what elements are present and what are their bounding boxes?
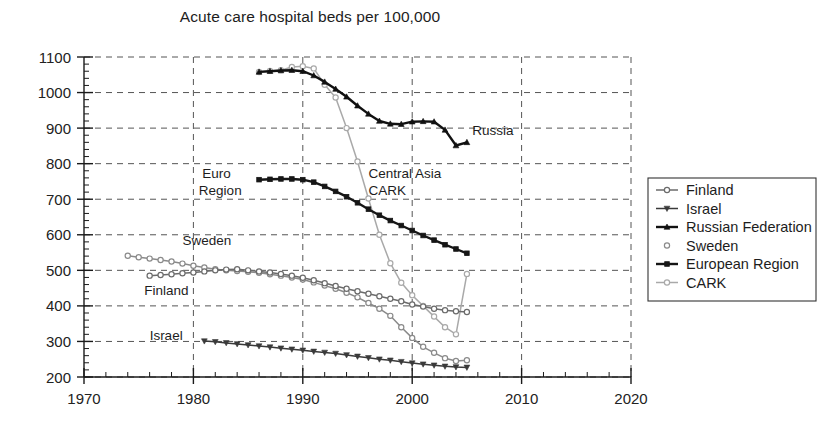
y-tick-label-500: 500 xyxy=(46,262,71,279)
data-point xyxy=(169,259,174,264)
annotation-finland: Finland xyxy=(144,283,188,298)
series-line xyxy=(259,66,467,334)
y-tick-label-700: 700 xyxy=(46,191,71,208)
data-point xyxy=(664,187,669,192)
data-point xyxy=(432,238,437,243)
data-point xyxy=(180,261,185,266)
data-point xyxy=(388,218,393,223)
data-point xyxy=(464,271,469,276)
chart-plot-area: 20030040050060070080090010001100 1970198… xyxy=(0,0,839,426)
data-point xyxy=(322,184,327,189)
series-sweden xyxy=(125,253,469,363)
data-point xyxy=(399,299,404,304)
data-point xyxy=(443,242,448,247)
data-point xyxy=(355,200,360,205)
data-point xyxy=(191,270,196,275)
x-tick-label-1970: 1970 xyxy=(67,390,100,407)
data-point xyxy=(410,302,415,307)
legend-label: Finland xyxy=(686,182,734,198)
legend-label: CARK xyxy=(686,275,727,291)
annotation-cark: CARK xyxy=(368,183,406,198)
annotation-euro: Euro xyxy=(202,166,231,181)
data-point xyxy=(322,281,327,286)
data-point xyxy=(377,232,382,237)
data-point xyxy=(410,335,415,340)
y-tick-label-400: 400 xyxy=(46,297,71,314)
data-point xyxy=(377,213,382,218)
data-point xyxy=(267,270,272,275)
data-point xyxy=(399,223,404,228)
data-point xyxy=(421,233,426,238)
data-point xyxy=(180,271,185,276)
legend-label: Israel xyxy=(686,201,721,217)
data-point xyxy=(377,306,382,311)
series-line xyxy=(259,70,467,145)
data-point xyxy=(410,293,415,298)
data-point xyxy=(202,269,207,274)
data-point xyxy=(664,243,669,248)
data-point xyxy=(442,308,447,313)
data-point xyxy=(191,263,196,268)
data-point xyxy=(355,159,360,164)
annotation-region: Region xyxy=(199,183,242,198)
data-point xyxy=(664,280,669,285)
y-tick-label-1100: 1100 xyxy=(39,49,71,66)
x-tick-label-2010: 2010 xyxy=(505,390,538,407)
data-point xyxy=(169,272,174,277)
data-point xyxy=(158,257,163,262)
data-point xyxy=(246,268,251,273)
data-point xyxy=(442,325,447,330)
data-point xyxy=(311,278,316,283)
x-tick-label-1990: 1990 xyxy=(286,390,319,407)
data-point xyxy=(125,253,130,258)
data-point xyxy=(366,300,371,305)
x-tick-label-2020: 2020 xyxy=(614,390,647,407)
annotation-israel: Israel xyxy=(150,328,183,343)
data-point xyxy=(453,309,458,314)
data-point xyxy=(333,283,338,288)
data-point xyxy=(431,314,436,319)
data-point xyxy=(344,126,349,131)
chart-legend[interactable]: FinlandIsraelRussian FederationSwedenEur… xyxy=(648,178,816,301)
annotation-central-asia: Central Asia xyxy=(368,166,441,181)
data-point xyxy=(355,295,360,300)
series-cark xyxy=(256,64,469,337)
y-tick-label-800: 800 xyxy=(46,155,71,172)
data-point xyxy=(453,332,458,337)
data-point xyxy=(257,177,262,182)
data-point xyxy=(235,267,240,272)
series-line xyxy=(128,256,467,361)
x-tick-label-2000: 2000 xyxy=(396,390,429,407)
data-point xyxy=(453,358,458,363)
data-point xyxy=(300,275,305,280)
series-israel xyxy=(201,339,469,371)
data-point xyxy=(410,228,415,233)
data-point xyxy=(344,194,349,199)
data-point xyxy=(665,262,670,267)
data-point xyxy=(213,268,218,273)
data-point xyxy=(344,286,349,291)
legend-label: Sweden xyxy=(686,238,738,254)
data-point xyxy=(311,66,316,71)
data-point xyxy=(366,207,371,212)
data-point xyxy=(377,294,382,299)
data-point xyxy=(421,344,426,349)
legend-label: European Region xyxy=(686,256,799,272)
data-point xyxy=(454,247,459,252)
data-point xyxy=(465,251,470,256)
data-point xyxy=(333,95,338,100)
y-tick-label-600: 600 xyxy=(46,226,71,243)
series-european-region xyxy=(257,177,469,256)
data-point xyxy=(147,256,152,261)
data-point xyxy=(311,180,316,185)
series-russian-federation xyxy=(256,67,470,148)
data-point xyxy=(136,255,141,260)
data-series-group xyxy=(125,64,470,371)
data-point xyxy=(399,280,404,285)
data-point xyxy=(268,177,273,182)
data-point xyxy=(290,177,295,182)
data-point xyxy=(464,358,469,363)
data-point xyxy=(442,356,447,361)
data-point xyxy=(256,269,261,274)
y-axis-tick-labels: 20030040050060070080090010001100 xyxy=(38,49,71,386)
